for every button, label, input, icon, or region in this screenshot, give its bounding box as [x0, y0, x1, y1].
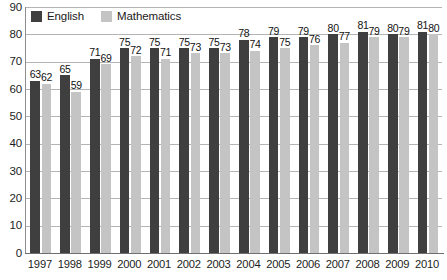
chart-legend: EnglishMathematics: [31, 11, 181, 22]
bar-value-label: 76: [306, 34, 323, 44]
bar-value-label: 62: [38, 72, 55, 82]
bar-group: 7169: [90, 7, 111, 253]
bar-group: 7573: [179, 7, 200, 253]
bar-mathematics-2008: [369, 37, 379, 253]
bar-value-label: 78: [235, 28, 252, 38]
bar-value-label: 79: [366, 26, 383, 36]
bar-group: 7571: [150, 7, 171, 253]
bar-english-1997: [30, 81, 40, 253]
bar-mathematics-1999: [101, 64, 111, 253]
bar-english-2008: [358, 32, 368, 253]
x-axis-line: [25, 253, 444, 254]
bar-group: 6559: [60, 7, 81, 253]
y-tick-label: 10: [10, 220, 22, 231]
x-tick-label: 2008: [353, 258, 383, 270]
bar-english-2009: [388, 34, 398, 253]
plot-area: 6362655971697572757175737573787479757976…: [25, 7, 442, 253]
x-tick-label: 2002: [174, 258, 204, 270]
legend-swatch-english: [31, 11, 42, 22]
bar-value-label: 59: [68, 80, 85, 90]
y-tick-label: 0: [16, 248, 22, 259]
bar-value-label: 75: [146, 37, 163, 47]
bar-mathematics-2005: [280, 48, 290, 253]
bar-english-2006: [299, 37, 309, 253]
y-tick-label: 90: [10, 2, 22, 13]
y-tick-label: 70: [10, 56, 22, 67]
bar-mathematics-2003: [220, 53, 230, 253]
bar-group: 7572: [120, 7, 141, 253]
bar-value-label: 74: [247, 39, 264, 49]
x-tick-label: 1998: [55, 258, 85, 270]
x-axis: 1997199819992000200120022003200420052006…: [25, 258, 442, 278]
bar-group: 7976: [299, 7, 320, 253]
x-tick-label: 2005: [263, 258, 293, 270]
legend-item-english[interactable]: English: [31, 11, 84, 22]
bar-group: 7975: [269, 7, 290, 253]
x-tick-label: 2006: [293, 258, 323, 270]
bar-mathematics-2009: [399, 37, 409, 253]
x-tick-label: 1997: [25, 258, 55, 270]
bar-english-2003: [209, 48, 219, 253]
y-tick-label: 20: [10, 193, 22, 204]
bar-value-label: 69: [98, 53, 115, 63]
bar-mathematics-2007: [340, 43, 350, 253]
bar-english-1998: [60, 75, 70, 253]
bar-mathematics-2002: [191, 53, 201, 253]
x-tick-label: 2000: [114, 258, 144, 270]
x-tick-label: 2009: [382, 258, 412, 270]
bar-value-label: 73: [187, 42, 204, 52]
bar-mathematics-2006: [310, 45, 320, 253]
legend-label: English: [47, 11, 84, 22]
x-tick-label: 1999: [85, 258, 115, 270]
bar-english-1999: [90, 59, 100, 253]
x-tick-label: 2010: [412, 258, 442, 270]
bar-value-label: 79: [396, 26, 413, 36]
bar-english-2000: [120, 48, 130, 253]
bar-chart: 9080706050403020100 63626559716975727571…: [0, 0, 447, 280]
bar-value-label: 65: [57, 64, 74, 74]
y-tick-label: 50: [10, 111, 22, 122]
y-tick-label: 40: [10, 138, 22, 149]
bar-english-2005: [269, 37, 279, 253]
y-tick-label: 60: [10, 84, 22, 95]
legend-item-mathematics[interactable]: Mathematics: [101, 11, 181, 22]
bar-mathematics-2001: [161, 59, 171, 253]
y-tick-label: 80: [10, 29, 22, 40]
y-axis: 9080706050403020100: [0, 0, 24, 256]
bar-value-label: 73: [217, 42, 234, 52]
bar-mathematics-1997: [42, 84, 52, 253]
legend-swatch-mathematics: [101, 11, 112, 22]
bar-value-label: 79: [265, 26, 282, 36]
bar-group: 8180: [418, 7, 439, 253]
bar-english-2001: [150, 48, 160, 253]
bar-group: 8179: [358, 7, 379, 253]
y-tick-label: 30: [10, 166, 22, 177]
bar-group: 7573: [209, 7, 230, 253]
bar-mathematics-2010: [429, 34, 439, 253]
bar-value-label: 77: [336, 31, 353, 41]
x-tick-label: 2004: [234, 258, 264, 270]
bar-english-2010: [418, 32, 428, 253]
bar-group: 6362: [30, 7, 51, 253]
bar-english-2007: [328, 34, 338, 253]
bar-english-2004: [239, 40, 249, 253]
bar-group: 7874: [239, 7, 260, 253]
bar-value-label: 72: [128, 45, 145, 55]
bar-value-label: 80: [425, 23, 442, 33]
x-tick-label: 2003: [204, 258, 234, 270]
bar-group: 8079: [388, 7, 409, 253]
x-tick-label: 2001: [144, 258, 174, 270]
bar-mathematics-2004: [250, 51, 260, 253]
bars-layer: 6362655971697572757175737573787479757976…: [26, 7, 442, 253]
bar-mathematics-1998: [71, 92, 81, 253]
bar-mathematics-2000: [131, 56, 141, 253]
bar-value-label: 71: [157, 47, 174, 57]
legend-label: Mathematics: [117, 11, 181, 22]
bar-english-2002: [179, 48, 189, 253]
x-tick-label: 2007: [323, 258, 353, 270]
bar-value-label: 75: [276, 37, 293, 47]
bar-group: 8077: [328, 7, 349, 253]
